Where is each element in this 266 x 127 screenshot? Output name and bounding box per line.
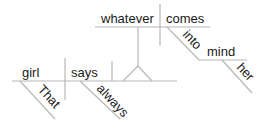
word-into: into <box>180 27 205 53</box>
word-her: her <box>234 60 258 84</box>
word-whatever: whatever <box>100 11 154 26</box>
word-says: says <box>71 65 98 80</box>
pedestal-left <box>123 66 138 81</box>
word-comes: comes <box>166 11 205 26</box>
word-mind: mind <box>207 44 235 59</box>
word-girl: girl <box>22 65 39 80</box>
pedestal-right <box>138 66 152 81</box>
word-that: That <box>35 82 64 112</box>
sentence-diagram: girl says whatever comes mind That alway… <box>0 0 266 127</box>
word-always: always <box>94 81 132 121</box>
